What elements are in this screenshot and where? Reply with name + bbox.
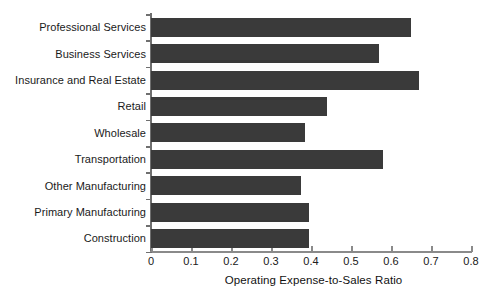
bar [151, 97, 327, 116]
category-label: Wholesale [94, 127, 146, 139]
y-tick [146, 199, 152, 201]
category-label: Transportation [75, 153, 146, 165]
x-axis-title-text: Operating Expense-to-Sales Ratio [225, 274, 403, 286]
x-tick [471, 246, 473, 252]
bar [151, 150, 383, 169]
x-tick [391, 246, 393, 252]
category-label: Primary Manufacturing [34, 206, 146, 218]
x-tick-label: 0.2 [211, 255, 251, 267]
x-tick-label: 0.6 [371, 255, 411, 267]
x-axis-title: Operating Expense-to-Sales Ratio [0, 274, 495, 286]
bar [151, 44, 379, 63]
bar [151, 18, 411, 37]
bar [151, 229, 309, 248]
y-tick [146, 146, 152, 148]
bar [151, 203, 309, 222]
bar [151, 176, 301, 195]
x-tick-label: 0.4 [291, 255, 331, 267]
x-tick-label: 0.8 [451, 255, 491, 267]
x-tick-label: 0.7 [411, 255, 451, 267]
x-tick-label: 0.5 [331, 255, 371, 267]
y-tick [146, 225, 152, 227]
category-label: Retail [118, 100, 146, 112]
bar-chart: 00.10.20.30.40.50.60.70.8 Professional S… [0, 0, 495, 302]
y-tick [146, 120, 152, 122]
x-tick-label: 0.3 [251, 255, 291, 267]
x-tick [311, 246, 313, 252]
x-tick-label: 0 [131, 255, 171, 267]
y-tick [146, 14, 152, 16]
category-label: Professional Services [39, 21, 146, 33]
category-label: Other Manufacturing [45, 180, 146, 192]
y-tick [146, 40, 152, 42]
x-tick [351, 246, 353, 252]
y-tick [146, 93, 152, 95]
x-tick [431, 246, 433, 252]
y-tick [146, 172, 152, 174]
y-tick [146, 67, 152, 69]
bar [151, 71, 419, 90]
category-label: Insurance and Real Estate [15, 74, 146, 86]
category-label: Construction [84, 232, 146, 244]
bar [151, 123, 305, 142]
x-tick-label: 0.1 [171, 255, 211, 267]
category-label: Business Services [55, 48, 146, 60]
